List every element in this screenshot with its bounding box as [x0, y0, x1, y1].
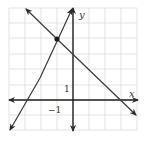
line-increasing [40, 9, 72, 78]
y-axis-label: y [78, 9, 85, 20]
line-decreasing-lower [57, 39, 136, 115]
coordinate-graph: y x 1 −1 [0, 0, 146, 145]
tick-label-x-neg1: −1 [48, 105, 61, 115]
line-decreasing [26, 9, 57, 39]
tick-label-y-1: 1 [64, 84, 70, 94]
x-axis-label: x [129, 88, 135, 99]
intersection-point [54, 36, 59, 41]
